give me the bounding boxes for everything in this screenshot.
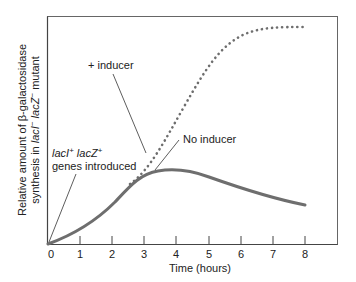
x-tick-label: 6 [238, 248, 244, 260]
x-tick-label: 1 [77, 248, 83, 260]
annotation-genes-introduced-line1: lacI+ lacZ+ [52, 146, 103, 159]
annotation-no-inducer: No inducer [183, 133, 237, 145]
x-ticks [80, 236, 305, 244]
annotation-no-inducer-pointer [155, 140, 179, 170]
y-axis-title: Relative amount of β-galactosidase synth… [16, 44, 41, 216]
series-plus-inducer-line [130, 27, 305, 184]
annotation-genes-introduced-line2: genes introduced [52, 160, 136, 172]
x-tick-label: 2 [109, 248, 115, 260]
annotation-plus-inducer: + inducer [88, 59, 134, 71]
x-tick-label: 8 [302, 248, 308, 260]
y-axis-title-line1: Relative amount of β-galactosidase [16, 44, 28, 216]
plot-frame [48, 17, 338, 245]
x-tick-labels: 0 1 2 3 4 5 6 7 8 [48, 248, 308, 260]
x-tick-label: 0 [48, 248, 54, 260]
x-tick-label: 5 [206, 248, 212, 260]
x-axis-title: Time (hours) [169, 262, 231, 274]
y-axis-title-line2: synthesis in lacI− lacZ− mutant [28, 56, 41, 204]
annotation-plus-inducer-pointer [113, 74, 146, 153]
x-tick-label: 4 [173, 248, 179, 260]
x-tick-label: 7 [270, 248, 276, 260]
series-no-inducer-line [48, 170, 305, 244]
x-tick-label: 3 [141, 248, 147, 260]
chart: 0 1 2 3 4 5 6 7 8 Time (hours) Relative … [0, 0, 356, 282]
